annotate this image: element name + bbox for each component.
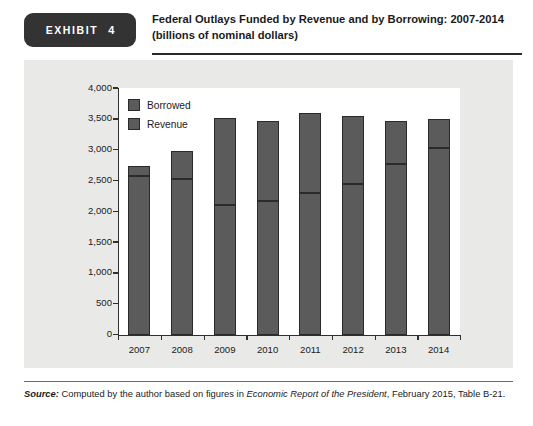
x-axis-tick-label: 2014 — [419, 344, 459, 355]
bar-segment-borrowed — [257, 121, 279, 201]
bar-segment-revenue — [342, 184, 364, 335]
y-axis-tick — [113, 272, 118, 273]
bar-segment-revenue — [385, 164, 407, 335]
x-axis-tick-label: 2010 — [248, 344, 288, 355]
exhibit-figure: EXHIBIT 4 Federal Outlays Funded by Reve… — [0, 0, 533, 426]
legend-label-borrowed: Borrowed — [147, 100, 191, 111]
bar-segment-revenue — [128, 176, 150, 334]
x-axis-tick — [417, 335, 418, 340]
x-axis-tick — [161, 335, 162, 340]
bar-segment-borrowed — [428, 119, 450, 149]
bar-segment-borrowed — [342, 116, 364, 183]
y-axis-tick — [113, 303, 118, 304]
x-axis-tick-label: 2013 — [376, 344, 416, 355]
y-axis-tick-label: 1,500 — [60, 236, 112, 247]
figure-title: Federal Outlays Funded by Revenue and by… — [152, 12, 522, 43]
bar-segment-revenue — [299, 193, 321, 335]
source-publication: Economic Report of the President — [247, 388, 387, 399]
y-axis-tick-label: 4,000 — [60, 82, 112, 93]
y-axis-tick — [113, 241, 118, 242]
y-axis-line — [118, 88, 119, 336]
bar-segment-borrowed — [385, 121, 407, 163]
x-axis-tick-label: 2012 — [333, 344, 373, 355]
bar-segment-revenue — [214, 205, 236, 334]
bar-stack — [428, 119, 450, 335]
y-axis-tick-label: 2,000 — [60, 205, 112, 216]
y-axis-tick-label: 3,500 — [60, 112, 112, 123]
bar-stack — [385, 121, 407, 334]
x-axis-tick — [204, 335, 205, 340]
x-axis-tick — [289, 335, 290, 340]
y-axis-tick-label: 3,000 — [60, 143, 112, 154]
source-divider — [24, 381, 513, 382]
x-axis-tick — [460, 335, 461, 340]
bar-segment-revenue — [257, 201, 279, 334]
x-axis-tick-label: 2011 — [290, 344, 330, 355]
x-axis-tick — [246, 335, 247, 340]
y-axis-tick-label: 0 — [60, 328, 112, 339]
legend-label-revenue: Revenue — [147, 119, 188, 130]
bar-segment-borrowed — [171, 151, 193, 179]
y-axis-tick — [113, 87, 118, 88]
x-axis-tick-label: 2008 — [162, 344, 202, 355]
exhibit-badge: EXHIBIT 4 — [24, 13, 136, 47]
legend-swatch-borrowed-icon — [128, 99, 140, 111]
bar-segment-borrowed — [299, 113, 321, 193]
y-axis-tick-label: 500 — [60, 297, 112, 308]
bar-stack — [128, 166, 150, 334]
y-axis-tick-label: 1,000 — [60, 266, 112, 277]
legend-item-revenue: Revenue — [128, 118, 191, 130]
x-axis-tick-label: 2009 — [205, 344, 245, 355]
bar-segment-borrowed — [214, 118, 236, 206]
figure-title-line2: (billions of nominal dollars) — [152, 28, 522, 44]
y-axis-tick — [113, 118, 118, 119]
x-axis-tick — [332, 335, 333, 340]
bar-stack — [214, 118, 236, 335]
y-axis-tick — [113, 211, 118, 212]
legend-item-borrowed: Borrowed — [128, 99, 191, 111]
bar-segment-revenue — [171, 179, 193, 334]
bar-stack — [171, 151, 193, 335]
figure-header: EXHIBIT 4 Federal Outlays Funded by Reve… — [0, 0, 533, 60]
bar-stack — [257, 121, 279, 334]
source-text-after: , February 2015, Table B-21. — [387, 388, 506, 399]
bar-stack — [342, 116, 364, 334]
chart-legend: Borrowed Revenue — [128, 99, 191, 137]
bar-segment-borrowed — [128, 166, 150, 176]
legend-swatch-revenue-icon — [128, 118, 140, 130]
source-label: Source: — [24, 388, 59, 399]
bar-stack — [299, 113, 321, 335]
exhibit-number: 4 — [108, 24, 114, 36]
exhibit-label: EXHIBIT — [46, 24, 99, 36]
source-note: Source: Computed by the author based on … — [24, 387, 516, 401]
x-axis-tick — [375, 335, 376, 340]
y-axis-tick — [113, 149, 118, 150]
source-text-before: Computed by the author based on figures … — [59, 388, 247, 399]
y-axis-tick — [113, 180, 118, 181]
x-axis-tick — [118, 335, 119, 340]
x-axis-tick-label: 2007 — [119, 344, 159, 355]
y-axis-tick-label: 2,500 — [60, 174, 112, 185]
bar-segment-revenue — [428, 148, 450, 334]
header-divider — [152, 53, 522, 55]
figure-title-line1: Federal Outlays Funded by Revenue and by… — [152, 12, 522, 28]
